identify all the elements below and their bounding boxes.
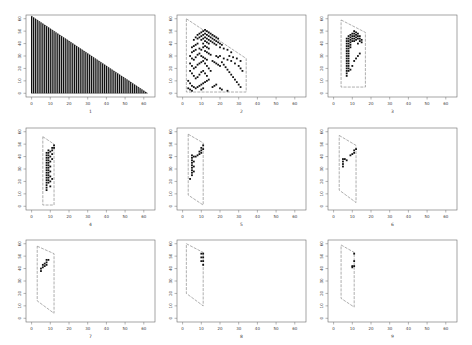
- x-tick-label: 40: [406, 101, 412, 106]
- y-tick-label: 20: [17, 65, 22, 71]
- y-tick-label: 10: [168, 78, 173, 84]
- x-tick-label: 50: [123, 214, 129, 219]
- x-tick-label: 50: [274, 326, 280, 331]
- data-points: [46, 144, 55, 191]
- y-tick-label: 10: [319, 78, 324, 84]
- x-tick-label: 60: [443, 101, 449, 106]
- x-tick-label: 20: [66, 214, 72, 219]
- x-tick-label: 10: [199, 101, 205, 106]
- x-tick-label: 20: [368, 326, 374, 331]
- scatter-panel-9: 010203040506001020304050609: [304, 236, 472, 345]
- plot-frame: [177, 15, 306, 97]
- x-tick-label: 50: [425, 326, 431, 331]
- y-axis: 0102030405060: [319, 16, 328, 95]
- x-tick-label: 20: [217, 214, 223, 219]
- data-points: [187, 29, 243, 92]
- scatter-panel-4: 010203040506001020304050604: [2, 124, 171, 246]
- y-tick-label: 30: [168, 278, 173, 284]
- x-tick-label: 20: [217, 101, 223, 106]
- y-tick-label: 30: [319, 53, 324, 59]
- x-tick-label: 30: [85, 326, 91, 331]
- y-tick-label: 10: [168, 303, 173, 309]
- y-tick-label: 0: [319, 205, 324, 208]
- x-tick-label: 30: [387, 101, 393, 106]
- x-tick-label: 10: [48, 326, 54, 331]
- x-axis: 0102030405060: [332, 210, 448, 219]
- panel-label: 2: [240, 109, 243, 114]
- region-outline: [37, 246, 54, 313]
- x-tick-label: 20: [368, 214, 374, 219]
- y-tick-label: 10: [319, 303, 324, 309]
- x-tick-label: 0: [181, 101, 184, 106]
- x-axis: 0102030405060: [332, 97, 448, 106]
- scatter-panel-5: 010203040506001020304050605: [153, 124, 322, 246]
- region-outline: [341, 245, 354, 307]
- y-tick-label: 60: [319, 16, 324, 22]
- y-tick-label: 60: [17, 241, 22, 247]
- y-tick-label: 30: [17, 166, 22, 172]
- dense-points: [32, 16, 148, 93]
- scatter-panel-2: 010203040506001020304050602: [153, 11, 322, 133]
- y-tick-label: 50: [168, 253, 173, 259]
- panel-label: 5: [240, 222, 243, 227]
- x-tick-label: 10: [48, 214, 54, 219]
- y-tick-label: 60: [168, 129, 173, 135]
- x-tick-label: 30: [387, 214, 393, 219]
- data-points: [342, 148, 357, 167]
- y-tick-label: 0: [17, 205, 22, 208]
- x-tick-label: 0: [332, 214, 335, 219]
- x-tick-label: 20: [217, 326, 223, 331]
- plot-frame: [177, 128, 306, 210]
- data-points: [200, 253, 204, 266]
- scatter-panel-7: 010203040506001020304050607: [2, 236, 171, 345]
- data-points: [40, 259, 49, 272]
- scatter-panel-8: 010203040506001020304050608: [153, 236, 322, 345]
- scatter-panel-3: 010203040506001020304050603: [304, 11, 472, 133]
- y-tick-label: 0: [168, 92, 173, 95]
- y-tick-label: 30: [319, 166, 324, 172]
- y-tick-label: 40: [17, 266, 22, 272]
- x-tick-label: 30: [85, 214, 91, 219]
- y-tick-label: 40: [319, 266, 324, 272]
- y-tick-label: 20: [17, 290, 22, 296]
- x-tick-label: 30: [236, 101, 242, 106]
- x-axis: 0102030405060: [30, 97, 146, 106]
- x-tick-label: 60: [141, 214, 147, 219]
- x-tick-label: 50: [274, 101, 280, 106]
- y-tick-label: 60: [168, 241, 173, 247]
- y-axis: 0102030405060: [168, 241, 177, 320]
- data-points: [189, 144, 204, 179]
- x-axis: 0102030405060: [30, 210, 146, 219]
- y-tick-label: 10: [319, 191, 324, 197]
- y-tick-label: 60: [168, 16, 173, 22]
- panel-label: 4: [89, 222, 92, 227]
- y-tick-label: 20: [168, 290, 173, 296]
- y-tick-label: 10: [17, 78, 22, 84]
- y-tick-label: 30: [17, 53, 22, 59]
- x-tick-label: 0: [30, 101, 33, 106]
- y-tick-label: 0: [17, 317, 22, 320]
- x-tick-label: 10: [48, 101, 54, 106]
- y-tick-label: 50: [17, 253, 22, 259]
- y-axis: 0102030405060: [17, 241, 26, 320]
- y-tick-label: 20: [17, 178, 22, 184]
- x-tick-label: 50: [123, 326, 129, 331]
- data-points: [351, 253, 355, 268]
- scatter-panel-1: 010203040506001020304050601: [2, 11, 171, 133]
- x-tick-label: 0: [30, 214, 33, 219]
- y-tick-label: 30: [168, 53, 173, 59]
- y-tick-label: 50: [319, 141, 324, 147]
- y-axis: 0102030405060: [17, 16, 26, 95]
- x-tick-label: 10: [350, 326, 356, 331]
- x-tick-label: 10: [199, 326, 205, 331]
- x-tick-label: 60: [141, 101, 147, 106]
- y-tick-label: 60: [319, 129, 324, 135]
- x-tick-label: 30: [387, 326, 393, 331]
- y-axis: 0102030405060: [319, 129, 328, 208]
- y-tick-label: 40: [17, 154, 22, 160]
- scatter-panel-6: 010203040506001020304050606: [304, 124, 472, 246]
- x-tick-label: 50: [425, 214, 431, 219]
- y-tick-label: 30: [319, 278, 324, 284]
- x-tick-label: 60: [292, 214, 298, 219]
- x-tick-label: 0: [181, 214, 184, 219]
